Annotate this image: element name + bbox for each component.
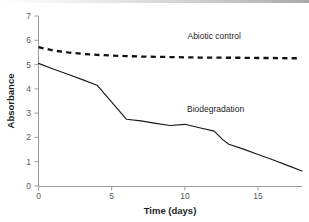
- y-tick-label-7: 7: [26, 11, 31, 21]
- series-line-abiotic-control: [39, 47, 298, 58]
- x-tick-label-0: 0: [36, 191, 41, 201]
- y-tick-label-2: 2: [26, 132, 31, 142]
- series-annotation-abiotic-control: Abiotic control: [187, 31, 240, 41]
- y-tick-label-3: 3: [26, 108, 31, 118]
- y-tick-label-0: 0: [26, 181, 31, 191]
- x-axis: 0 5 10 15: [36, 187, 302, 202]
- chart-svg: 7 6 5 4 3 2 1 0 0 5 10 15 Time (days) Ab…: [0, 0, 309, 222]
- y-axis-title: Absorbance: [5, 74, 16, 129]
- y-tick-label-1: 1: [26, 157, 31, 167]
- x-tick-label-10: 10: [180, 191, 190, 201]
- x-tick-label-5: 5: [109, 191, 114, 201]
- y-tick-label-4: 4: [26, 84, 31, 94]
- absorbance-vs-time-chart: 7 6 5 4 3 2 1 0 0 5 10 15 Time (days) Ab…: [0, 0, 309, 222]
- series-line-biodegradation: [39, 63, 303, 171]
- y-axis: 7 6 5 4 3 2 1 0: [26, 11, 38, 191]
- x-axis-title: Time (days): [144, 205, 197, 216]
- x-tick-label-15: 15: [253, 191, 263, 201]
- series-annotation-biodegradation: Biodegradation: [187, 104, 244, 114]
- y-tick-label-5: 5: [26, 60, 31, 70]
- y-tick-label-6: 6: [26, 35, 31, 45]
